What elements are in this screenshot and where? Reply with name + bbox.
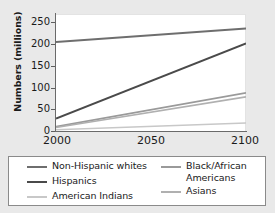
legend-label: Hispanics (52, 175, 97, 187)
series-line-hispanics (56, 43, 246, 118)
legend-label: American Indians (52, 190, 133, 202)
legend-label: Black/African Americans (186, 160, 247, 184)
legend-swatch-icon (27, 196, 47, 198)
x-tick-label-2100: 2100 (231, 134, 259, 147)
legend-swatch-icon (161, 191, 181, 193)
plot-area (56, 14, 246, 131)
x-tick-label-2000: 2000 (43, 134, 71, 147)
line-chart: Numbers (millions) 0 50 100 150 200 250 … (0, 0, 275, 152)
legend-item-hispanics[interactable]: Hispanics (27, 175, 157, 189)
x-tick-label-2050: 2050 (137, 134, 165, 147)
legend-label: Asians (186, 185, 216, 197)
legend-item-asians[interactable]: Asians (161, 185, 265, 199)
y-tick-label-150: 150 (31, 61, 50, 71)
series-lines (56, 15, 246, 132)
chart-screenshot: Numbers (millions) 0 50 100 150 200 250 … (0, 0, 275, 213)
series-line-non-hispanic-whites (56, 29, 246, 43)
y-axis-ticks: 0 50 100 150 200 250 (20, 0, 50, 152)
legend-swatch-icon (27, 166, 47, 168)
legend-item-non-hispanic-whites[interactable]: Non-Hispanic whites (27, 160, 157, 174)
series-line-black-african-americans (56, 93, 246, 127)
legend-column-left: Non-Hispanic whitesHispanicsAmerican Ind… (27, 160, 157, 205)
y-tick-label-50: 50 (37, 104, 50, 114)
y-tick-label-200: 200 (31, 39, 50, 49)
series-line-american-indians (56, 123, 246, 130)
y-tick-label-250: 250 (31, 17, 50, 27)
chart-legend: Non-Hispanic whitesHispanicsAmerican Ind… (8, 156, 266, 206)
series-line-asians (56, 97, 246, 128)
legend-item-american-indians[interactable]: American Indians (27, 190, 157, 204)
y-tick-label-100: 100 (31, 83, 50, 93)
legend-swatch-icon (27, 181, 47, 183)
legend-label: Non-Hispanic whites (52, 160, 147, 172)
legend-item-black-african-americans[interactable]: Black/African Americans (161, 160, 265, 184)
legend-swatch-icon (161, 166, 181, 168)
legend-column-right: Black/African AmericansAsians (161, 160, 265, 200)
